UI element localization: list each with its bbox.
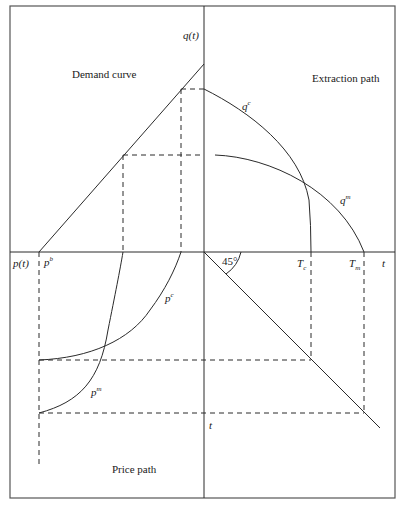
tm-label: Tm — [349, 258, 360, 272]
t-axis-label-bottom: t — [209, 420, 212, 431]
dashed-guides — [39, 89, 364, 466]
forty-five-degree-line — [204, 252, 380, 428]
t-axis-label-right: t — [382, 258, 385, 269]
angle-label: 45° — [222, 256, 237, 267]
pm-curve — [39, 252, 123, 413]
tc-label: Tc — [297, 258, 306, 272]
qc-label: qc — [242, 100, 251, 112]
pc-label: pc — [165, 292, 174, 304]
demand-curve-title: Demand curve — [72, 69, 136, 80]
pc-curve — [39, 252, 181, 360]
qc-curve — [204, 89, 311, 252]
q-axis-label: q(t) — [183, 30, 199, 41]
demand-curve — [39, 64, 204, 252]
pb-label: pb — [44, 256, 53, 268]
p-axis-label: p(t) — [13, 258, 29, 269]
extraction-path-title: Extraction path — [312, 73, 380, 84]
qm-label: qm — [340, 194, 351, 206]
price-path-title: Price path — [112, 464, 156, 475]
pm-label: pm — [91, 386, 102, 398]
